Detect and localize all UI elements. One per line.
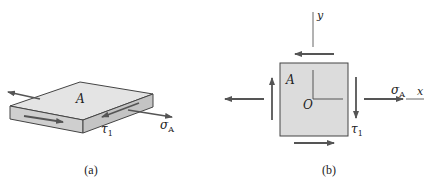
stress-element-diagram: A τ1 σA (a) y A O x σA τ1 (b)	[0, 0, 434, 187]
surface-label-a: A	[75, 92, 85, 106]
origin-label: O	[303, 98, 313, 112]
panel-b: y A O x σA τ1 (b)	[225, 9, 424, 177]
caption-b: (b)	[322, 163, 336, 177]
panel-a: A τ1 σA (a)	[8, 82, 174, 177]
normal-stress-arrow-left	[8, 92, 40, 99]
shear-label-a: τ1	[101, 122, 113, 138]
x-axis-label: x	[417, 85, 424, 98]
caption-a: (a)	[84, 163, 97, 177]
element-label: A	[285, 73, 295, 87]
y-axis-label: y	[316, 9, 324, 22]
stress-label-b: σA	[391, 83, 405, 99]
stress-label-a: σA	[160, 118, 174, 134]
shear-label-b: τ1	[351, 122, 363, 138]
